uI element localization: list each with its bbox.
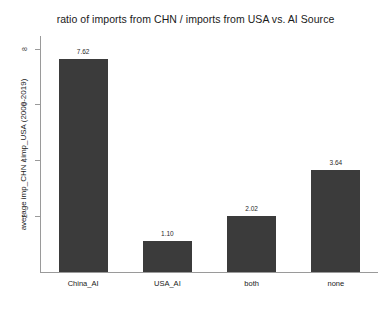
bar-value-label: 3.64 [291, 159, 380, 166]
bar-value-label: 1.10 [123, 230, 212, 237]
y-axis-tick-label: 8 [21, 41, 29, 57]
y-axis-tick [35, 160, 41, 161]
y-axis-tick [35, 104, 41, 105]
bar [143, 241, 192, 272]
bar-value-label: 7.62 [39, 48, 128, 55]
x-axis-tick-label: USA_AI [127, 279, 207, 288]
bar [227, 216, 276, 272]
y-axis-tick [35, 216, 41, 217]
y-axis-tick-label: 6 [21, 96, 29, 112]
bar-value-label: 2.02 [207, 205, 296, 212]
x-axis-tick-label: China_AI [43, 279, 123, 288]
bar [59, 59, 108, 272]
y-axis-tick-label: 4 [21, 152, 29, 168]
chart-title: ratio of imports from CHN / imports from… [0, 13, 391, 25]
y-axis-tick-label: 2 [21, 208, 29, 224]
x-axis-tick-label: none [296, 279, 376, 288]
x-axis-line [40, 272, 378, 273]
x-axis-tick-label: both [212, 279, 292, 288]
bar [311, 170, 360, 272]
plot-area: 24687.621.102.023.64 [41, 36, 378, 272]
bar-chart-figure: ratio of imports from CHN / imports from… [0, 0, 391, 311]
